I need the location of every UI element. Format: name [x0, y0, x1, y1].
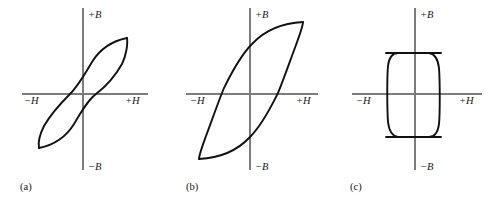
panel-c-label-neg-h: −H	[356, 95, 372, 106]
panel-b-label-neg-h: −H	[190, 95, 206, 106]
panel-a-label-pos-h: +H	[125, 95, 141, 106]
panel-a: −H +H +B −B (a)	[20, 8, 148, 193]
panel-b-caption: (b)	[186, 181, 199, 193]
panel-c-label-neg-b: −B	[420, 161, 434, 172]
panel-c-label-pos-b: +B	[420, 9, 434, 20]
panel-b-lower-branch	[199, 22, 303, 159]
panel-c-label-pos-h: +H	[459, 95, 475, 106]
panel-b-label-pos-h: +H	[296, 95, 312, 106]
panel-b-upper-branch	[199, 22, 303, 159]
panel-c-caption: (c)	[350, 181, 362, 193]
panel-a-label-neg-h: −H	[24, 95, 40, 106]
panel-a-label-neg-b: −B	[88, 161, 102, 172]
panel-b: −H +H +B −B (b)	[186, 8, 318, 193]
panel-a-caption: (a)	[20, 181, 32, 193]
hysteresis-diagram-canvas: −H +H +B −B (a) −H +H +B −B (b) −H +H +B	[0, 0, 497, 206]
panel-b-label-neg-b: −B	[255, 161, 269, 172]
panel-c: −H +H +B −B (c)	[350, 8, 482, 193]
panel-a-label-pos-b: +B	[88, 9, 102, 20]
panel-b-label-pos-b: +B	[255, 9, 269, 20]
hysteresis-figure: −H +H +B −B (a) −H +H +B −B (b) −H +H +B	[0, 0, 497, 206]
panel-c-lower-branch	[386, 53, 440, 137]
panel-c-upper-branch	[387, 53, 441, 137]
